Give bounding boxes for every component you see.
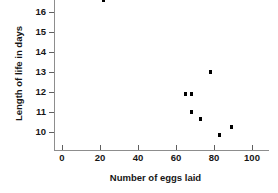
x-axis-label: Number of eggs laid	[48, 172, 263, 183]
x-axis-ticklabel-20: 20	[88, 153, 112, 163]
scatter-chart-figure: Length of life in days Number of eggs la…	[0, 0, 278, 193]
y-axis-ticklabel-11: 11	[26, 107, 46, 117]
x-axis-tick-20	[100, 145, 101, 150]
x-axis-tick-0	[62, 145, 63, 150]
data-point	[184, 92, 187, 95]
data-point	[218, 133, 221, 136]
x-axis-ticklabel-40: 40	[126, 153, 150, 163]
y-axis-tick-11	[49, 112, 54, 113]
y-axis-tick-13	[49, 72, 54, 73]
x-axis-ticklabel-60: 60	[164, 153, 188, 163]
x-axis-line	[54, 150, 269, 151]
data-point	[230, 125, 233, 128]
x-axis-tick-100	[252, 145, 253, 150]
x-axis-ticklabel-80: 80	[202, 153, 226, 163]
y-axis-line	[54, 0, 55, 151]
y-axis-tick-12	[49, 92, 54, 93]
y-axis-ticklabel-16: 16	[26, 7, 46, 17]
y-axis-ticklabel-10: 10	[26, 127, 46, 137]
x-axis-tick-60	[176, 145, 177, 150]
y-axis-tick-14	[49, 52, 54, 53]
x-axis-ticklabel-100: 100	[240, 153, 264, 163]
x-axis-ticklabel-0: 0	[50, 153, 74, 163]
data-point	[209, 70, 212, 73]
y-axis-ticklabel-12: 12	[26, 87, 46, 97]
y-axis-ticklabel-14: 14	[26, 47, 46, 57]
x-axis-tick-80	[214, 145, 215, 150]
y-axis-tick-16	[49, 12, 54, 13]
data-point	[199, 117, 202, 120]
data-point	[102, 0, 105, 2]
y-axis-tick-10	[49, 132, 54, 133]
data-point	[190, 92, 193, 95]
y-axis-tick-15	[49, 32, 54, 33]
data-point	[190, 110, 193, 113]
x-axis-tick-40	[138, 145, 139, 150]
y-axis-ticklabel-13: 13	[26, 67, 46, 77]
y-axis-ticklabel-15: 15	[26, 27, 46, 37]
y-axis-label: Length of life in days	[13, 0, 24, 149]
